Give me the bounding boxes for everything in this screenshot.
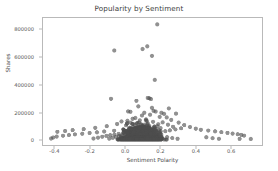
plot-area xyxy=(42,17,263,146)
x-tick-label: -0.2 xyxy=(85,148,95,154)
scatter-points-layer xyxy=(43,18,262,145)
x-tick-label: 0.6 xyxy=(227,148,235,154)
y-axis-tick-marks xyxy=(0,17,42,146)
chart-title: Popularity by Sentiment xyxy=(0,4,278,13)
x-tick-label: 0.4 xyxy=(192,148,200,154)
x-tick-label: -0.4 xyxy=(49,148,59,154)
chart-figure: Popularity by Sentiment Shares 020000040… xyxy=(0,0,278,171)
x-axis-label: Sentiment Polarity xyxy=(42,157,263,163)
x-tick-label: 0.2 xyxy=(156,148,164,154)
x-tick-label: 0.0 xyxy=(121,148,129,154)
